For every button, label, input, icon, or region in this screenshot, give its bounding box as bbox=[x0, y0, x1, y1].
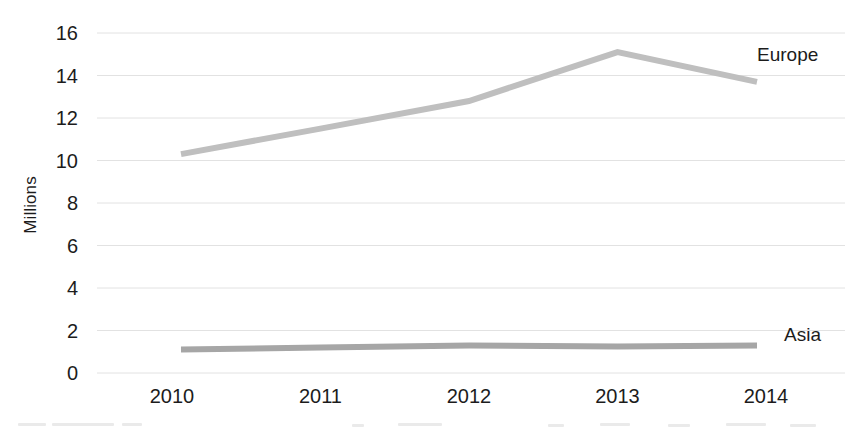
chart-plot-area bbox=[0, 0, 862, 435]
x-tick-label: 2014 bbox=[721, 386, 811, 406]
gridlines bbox=[97, 33, 845, 373]
y-tick-label: 2 bbox=[38, 321, 78, 341]
y-tick-label: 10 bbox=[38, 151, 78, 171]
x-tick-label: 2011 bbox=[276, 386, 366, 406]
y-tick-label: 6 bbox=[38, 236, 78, 256]
line-chart: Millions 1614121086420 20102011201220132… bbox=[0, 0, 862, 435]
y-tick-label: 8 bbox=[38, 193, 78, 213]
y-tick-label: 14 bbox=[38, 66, 78, 86]
series-label-asia: Asia bbox=[784, 325, 821, 344]
x-tick-label: 2012 bbox=[424, 386, 514, 406]
series-line-asia bbox=[181, 345, 757, 349]
y-tick-label: 0 bbox=[38, 363, 78, 383]
series-line-europe bbox=[181, 52, 757, 154]
x-tick-label: 2010 bbox=[127, 386, 217, 406]
y-tick-label: 16 bbox=[38, 23, 78, 43]
series-lines bbox=[181, 52, 757, 350]
y-tick-label: 4 bbox=[38, 278, 78, 298]
x-tick-label: 2013 bbox=[573, 386, 663, 406]
y-tick-label: 12 bbox=[38, 108, 78, 128]
series-label-europe: Europe bbox=[757, 45, 818, 64]
